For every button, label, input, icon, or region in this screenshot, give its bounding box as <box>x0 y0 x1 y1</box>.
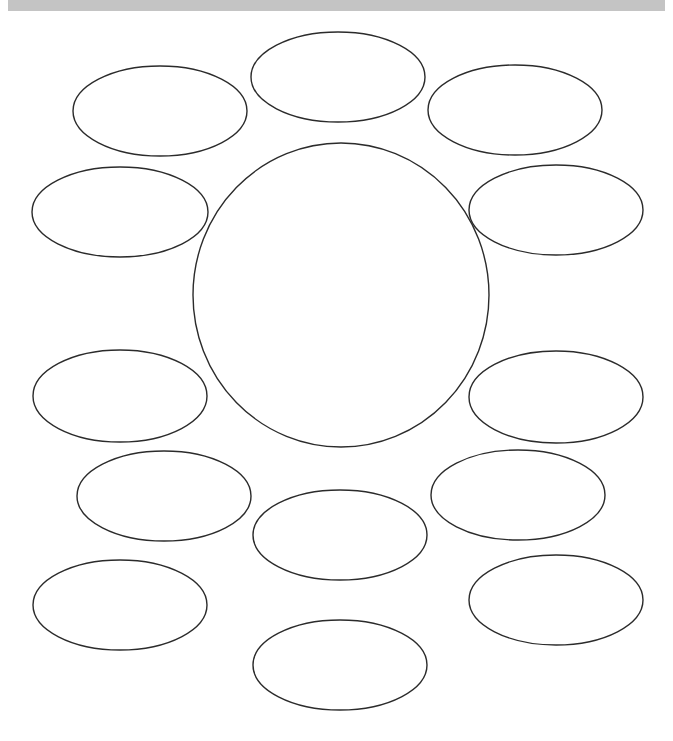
satellite-node-ellipse[interactable] <box>431 450 605 540</box>
satellite-node-ellipse[interactable] <box>33 350 207 442</box>
satellite-node-ellipse[interactable] <box>251 32 425 122</box>
satellite-node[interactable] <box>253 490 427 580</box>
satellite-node-ellipse[interactable] <box>469 555 643 645</box>
center-node[interactable] <box>193 143 489 447</box>
satellite-node[interactable] <box>469 555 643 645</box>
satellite-node-ellipse[interactable] <box>469 351 643 443</box>
worksheet-page <box>0 0 673 741</box>
satellite-node-ellipse[interactable] <box>77 451 251 541</box>
satellite-node[interactable] <box>253 620 427 710</box>
satellite-node[interactable] <box>33 560 207 650</box>
center-node-ellipse[interactable] <box>193 143 489 447</box>
satellite-node[interactable] <box>469 165 643 255</box>
satellite-node-ellipse[interactable] <box>469 165 643 255</box>
satellite-node-ellipse[interactable] <box>428 65 602 155</box>
satellite-node-ellipse[interactable] <box>253 490 427 580</box>
satellite-node[interactable] <box>251 32 425 122</box>
satellite-node[interactable] <box>73 66 247 156</box>
satellite-node[interactable] <box>77 451 251 541</box>
satellite-node-ellipse[interactable] <box>33 560 207 650</box>
satellite-node-ellipse[interactable] <box>32 167 208 257</box>
satellite-node[interactable] <box>431 450 605 540</box>
satellite-node-ellipse[interactable] <box>253 620 427 710</box>
satellite-node-ellipse[interactable] <box>73 66 247 156</box>
satellite-node[interactable] <box>32 167 208 257</box>
satellite-node[interactable] <box>33 350 207 442</box>
satellite-node[interactable] <box>428 65 602 155</box>
satellite-node[interactable] <box>469 351 643 443</box>
concept-map-diagram <box>0 0 673 741</box>
